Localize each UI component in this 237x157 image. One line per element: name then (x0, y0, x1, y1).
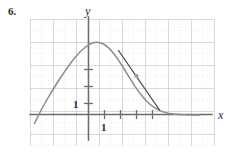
tangent-point-marker (134, 74, 138, 78)
x-tick-label-one: 1 (101, 121, 107, 133)
figure-container: 6. (0, 0, 237, 157)
y-tick-label-one: 1 (73, 98, 79, 110)
axes (30, 17, 212, 140)
y-axis-label: y (84, 4, 91, 18)
tangent-line (119, 51, 160, 111)
graph-plot: x y 1 1 (0, 0, 237, 157)
x-axis-label: x (217, 108, 224, 122)
